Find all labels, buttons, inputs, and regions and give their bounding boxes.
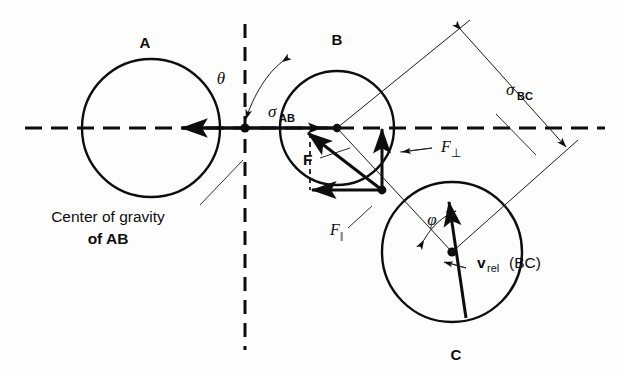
center-of-gravity-dot — [240, 123, 249, 132]
contact-point-dot — [378, 186, 387, 195]
label-theta: θ — [217, 69, 225, 88]
sigma-bc-extension-lower — [452, 140, 578, 252]
label-sigma-bc-subscript: BC — [517, 90, 533, 102]
sigma-ab-vector-group — [182, 123, 337, 134]
label-sigma-ab-subscript: AB — [279, 112, 295, 124]
v-rel-vector — [449, 202, 466, 318]
label-force-par: F ‖ — [329, 221, 343, 243]
label-sigma-ab: σ AB — [268, 102, 295, 124]
label-force-par-subscript: ‖ — [340, 231, 343, 243]
label-sigma-ab-symbol: σ — [268, 102, 277, 121]
label-force-perp-symbol: F — [440, 138, 451, 155]
label-force-par-symbol: F — [329, 221, 340, 238]
label-v-rel-argument: (BC) — [509, 254, 541, 271]
leader-v-rel-arrow — [444, 262, 466, 268]
v-rel-group — [449, 202, 466, 318]
leader-force-par — [348, 206, 372, 228]
label-circle-b: B — [332, 31, 343, 48]
leader-center-of-gravity — [200, 160, 243, 205]
label-circle-c: C — [451, 346, 462, 363]
label-force-perp: F ⊥ — [440, 138, 461, 159]
label-center-of-gravity-line1: Center of gravity — [51, 208, 165, 225]
label-v-rel-symbol: v — [477, 254, 486, 271]
diagram-canvas: A B C θ φ σ AB σ BC F F ⊥ F ‖ v rel — [0, 0, 624, 376]
leader-force-f — [320, 148, 350, 158]
label-sigma-bc: σ BC — [506, 80, 533, 102]
theta-arc — [246, 62, 282, 119]
theta-angle-group — [246, 62, 282, 119]
label-phi: φ — [427, 210, 436, 229]
label-circle-a: A — [140, 34, 151, 51]
collision-diagram-figure: A B C θ φ σ AB σ BC F F ⊥ F ‖ v rel — [0, 0, 624, 376]
label-center-of-gravity-line2: of AB — [88, 230, 129, 247]
label-v-rel: v rel (BC) — [477, 254, 541, 274]
label-center-of-gravity: Center of gravity of AB — [51, 208, 165, 247]
leader-force-perp-arrow — [402, 148, 432, 152]
label-v-rel-subscript: rel — [487, 262, 499, 274]
sigma-bc-dimension-group — [337, 20, 578, 252]
label-sigma-bc-symbol: σ — [506, 80, 515, 99]
leader-sigma-bc — [496, 114, 536, 155]
label-force-f: F — [303, 151, 312, 168]
label-force-perp-subscript: ⊥ — [451, 147, 461, 159]
